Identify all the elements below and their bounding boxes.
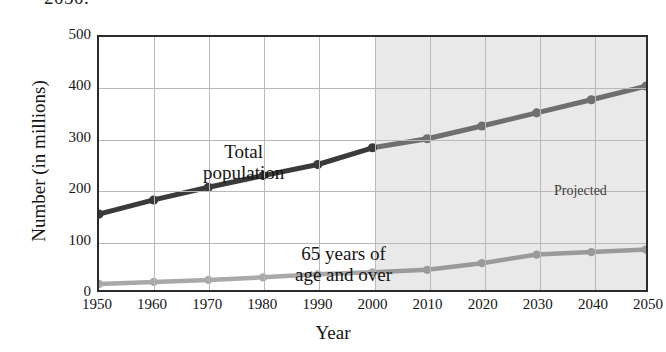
x-tick-label: 2040 — [563, 296, 623, 313]
data-point-marker — [99, 280, 103, 288]
x-axis-title: Year — [0, 322, 666, 344]
gridline-vertical — [485, 37, 486, 290]
x-tick-label: 2010 — [398, 296, 458, 313]
series-line-projected — [373, 250, 647, 273]
gridline-horizontal — [99, 140, 646, 141]
clipped-caption: 2050. — [0, 0, 666, 7]
y-tick-label: 300 — [45, 129, 91, 146]
elderly-label: 65 years of age and over — [295, 243, 392, 286]
series-line-projected — [373, 86, 647, 148]
gridline-vertical — [595, 37, 596, 290]
y-tick-label: 500 — [45, 26, 91, 43]
total-population-label: Total population — [203, 141, 284, 184]
clipped-caption-text: 2050. — [44, 0, 666, 7]
data-point-marker — [259, 273, 267, 281]
figure-root: 2050. Number (in millions) 0100200300400… — [0, 0, 666, 352]
total-population-label-line2: population — [203, 162, 284, 183]
gridline-horizontal — [99, 88, 646, 89]
data-point-marker — [368, 143, 377, 152]
x-tick-label: 1980 — [232, 296, 292, 313]
x-tick-label: 1970 — [177, 296, 237, 313]
plot-area: Total population 65 years of age and ove… — [97, 35, 648, 292]
y-tick-label: 200 — [45, 180, 91, 197]
projected-label: Projected — [554, 183, 607, 199]
x-tick-label: 2000 — [343, 296, 403, 313]
x-tick-label: 1960 — [122, 296, 182, 313]
total-population-label-line1: Total — [203, 141, 284, 162]
elderly-label-line1: 65 years of — [295, 243, 392, 264]
gridline-vertical — [540, 37, 541, 290]
y-tick-label: 100 — [45, 232, 91, 249]
x-tick-label: 2020 — [453, 296, 513, 313]
x-tick-label: 1950 — [67, 296, 127, 313]
x-tick-label: 2030 — [508, 296, 568, 313]
data-point-marker — [642, 245, 646, 253]
gridline-vertical — [154, 37, 155, 290]
gridline-vertical — [430, 37, 431, 290]
y-tick-label: 400 — [45, 77, 91, 94]
x-tick-label: 1990 — [287, 296, 347, 313]
elderly-label-line2: age and over — [295, 264, 392, 285]
data-point-marker — [313, 160, 322, 169]
x-axis-tick-labels: 1950196019701980199020002010202020302040… — [97, 296, 648, 320]
x-tick-label: 2050 — [618, 296, 666, 313]
